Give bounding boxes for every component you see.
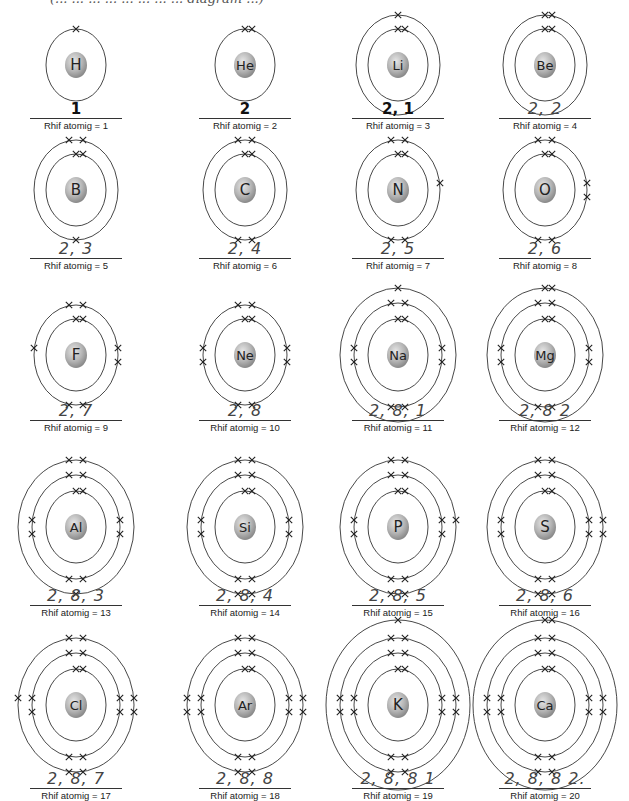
atom-caption: 2, 8, 5Rhif atomig = 15: [343, 587, 453, 618]
atomic-number-label: Rhif atomig = 2: [190, 120, 300, 131]
atom-caption: 2, 8, 1Rhif atomig = 11: [343, 402, 453, 433]
element-symbol: Si: [239, 520, 251, 535]
atomic-number-label: Rhif atomig = 1: [21, 120, 131, 131]
bohr-model-diagram: O: [545, 190, 546, 191]
atom-caption: 2, 8, 8Rhif atomig = 18: [190, 770, 300, 801]
atom-caption: 2, 8, 3Rhif atomig = 13: [21, 587, 131, 618]
atomic-number-label: Rhif atomig = 13: [21, 607, 131, 618]
electron-configuration: 2, 4: [199, 240, 291, 259]
bohr-model-diagram: Ca: [545, 705, 546, 706]
atom-caption: 2, 8, 8 1Rhif atomig = 19: [343, 770, 453, 801]
atomic-number-label: Rhif atomig = 17: [21, 790, 131, 801]
atomic-number-label: Rhif atomig = 7: [343, 260, 453, 271]
electron-configuration: 2: [199, 100, 291, 119]
electron-configuration: 2, 5: [352, 240, 444, 259]
bohr-model-diagram: C: [245, 190, 246, 191]
bohr-model-diagram: F: [76, 355, 77, 356]
atomic-number-label: Rhif atomig = 14: [190, 607, 300, 618]
atom-caption: 2Rhif atomig = 2: [190, 100, 300, 131]
atomic-number-label: Rhif atomig = 8: [490, 260, 600, 271]
atom-caption: 2, 8, 6Rhif atomig = 16: [490, 587, 600, 618]
element-symbol: Mg: [535, 348, 554, 363]
atomic-number-label: Rhif atomig = 4: [490, 120, 600, 131]
element-symbol: He: [236, 58, 254, 73]
bohr-model-diagram: Be: [545, 65, 546, 66]
atom-caption: 2, 8, 7Rhif atomig = 17: [21, 770, 131, 801]
atom-caption: 1Rhif atomig = 1: [21, 100, 131, 131]
electron-configuration: 2, 7: [30, 402, 122, 421]
atom-caption: 2, 8Rhif atomig = 10: [190, 402, 300, 433]
element-symbol: S: [540, 518, 550, 536]
electron-configuration: 2, 8: [199, 402, 291, 421]
atomic-number-label: Rhif atomig = 3: [343, 120, 453, 131]
electron-configuration: 2, 6: [499, 240, 591, 259]
atomic-number-label: Rhif atomig = 16: [490, 607, 600, 618]
electron-configuration: 2, 1: [352, 100, 444, 119]
bohr-model-diagram: Cl: [76, 705, 77, 706]
atomic-number-label: Rhif atomig = 10: [190, 422, 300, 433]
bohr-model-diagram: H: [76, 65, 77, 66]
element-symbol: Be: [537, 58, 554, 73]
element-symbol: N: [392, 181, 403, 199]
bohr-model-diagram: B: [76, 190, 77, 191]
bohr-model-diagram: Al: [76, 527, 77, 528]
element-symbol: Li: [393, 58, 404, 73]
element-symbol: Ar: [238, 698, 253, 713]
atomic-number-label: Rhif atomig = 6: [190, 260, 300, 271]
atom-caption: 2, 5Rhif atomig = 7: [343, 240, 453, 271]
electron-configuration: 2, 8, 8 2.: [499, 770, 591, 789]
electron-configuration: 2, 8, 3: [30, 587, 122, 606]
bohr-model-diagram: He: [245, 65, 246, 66]
atom-caption: 2, 1Rhif atomig = 3: [343, 100, 453, 131]
element-symbol: P: [393, 518, 402, 536]
bohr-model-diagram: Si: [245, 527, 246, 528]
electron-configuration: 2, 8, 5: [352, 587, 444, 606]
element-symbol: O: [539, 181, 551, 199]
electron-configuration: 2, 8, 6: [499, 587, 591, 606]
bohr-model-diagram: K: [398, 705, 399, 706]
atom-caption: 2, 8 2Rhif atomig = 12: [490, 402, 600, 433]
element-symbol: F: [72, 346, 81, 364]
atomic-number-label: Rhif atomig = 19: [343, 790, 453, 801]
bohr-model-diagram: S: [545, 527, 546, 528]
electron-configuration: 2, 8 2: [499, 402, 591, 421]
bohr-model-diagram: Mg: [545, 355, 546, 356]
element-symbol: C: [240, 181, 250, 199]
atomic-number-label: Rhif atomig = 11: [343, 422, 453, 433]
element-symbol: B: [71, 181, 81, 199]
bohr-model-diagram: Ne: [245, 355, 246, 356]
atomic-number-label: Rhif atomig = 9: [21, 422, 131, 433]
element-symbol: Al: [70, 520, 83, 535]
atomic-number-label: Rhif atomig = 15: [343, 607, 453, 618]
electron-configuration: 2, 2: [499, 100, 591, 119]
atom-caption: 2, 3Rhif atomig = 5: [21, 240, 131, 271]
electron-configuration: 1: [30, 100, 122, 119]
element-symbol: H: [70, 56, 81, 74]
electron-configuration: 2, 3: [30, 240, 122, 259]
atomic-number-label: Rhif atomig = 18: [190, 790, 300, 801]
bohr-model-diagram: N: [398, 190, 399, 191]
electron-configuration: 2, 8, 8: [199, 770, 291, 789]
element-symbol: Cl: [70, 698, 83, 713]
atom-caption: 2, 8, 4Rhif atomig = 14: [190, 587, 300, 618]
element-symbol: Ca: [536, 698, 553, 713]
bohr-model-diagram: P: [398, 527, 399, 528]
electron-configuration: 2, 8, 8 1: [352, 770, 444, 789]
element-symbol: K: [393, 696, 404, 714]
bohr-model-diagram: Na: [398, 355, 399, 356]
atom-caption: 2, 6Rhif atomig = 8: [490, 240, 600, 271]
electron-configuration: 2, 8, 1: [352, 402, 444, 421]
atomic-number-label: Rhif atomig = 20: [490, 790, 600, 801]
electron-configuration: 2, 8, 7: [30, 770, 122, 789]
bohr-model-diagram: Ar: [245, 705, 246, 706]
atom-caption: 2, 7Rhif atomig = 9: [21, 402, 131, 433]
element-symbol: Na: [389, 348, 407, 363]
atomic-number-label: Rhif atomig = 12: [490, 422, 600, 433]
atomic-number-label: Rhif atomig = 5: [21, 260, 131, 271]
bohr-model-diagram: Li: [398, 65, 399, 66]
atom-caption: 2, 2Rhif atomig = 4: [490, 100, 600, 131]
cropped-heading-text: (... ... ... ... ... ... ... ... diagram…: [50, 0, 264, 6]
electron-configuration: 2, 8, 4: [199, 587, 291, 606]
element-symbol: Ne: [236, 348, 254, 363]
atom-caption: 2, 8, 8 2.Rhif atomig = 20: [490, 770, 600, 801]
